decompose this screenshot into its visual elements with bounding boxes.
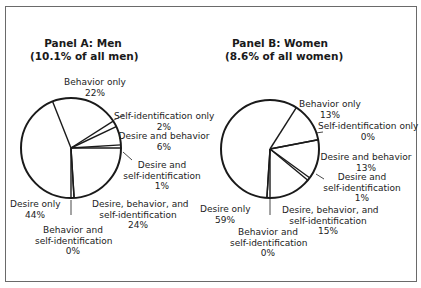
label-a-desire-only: Desire only 44% <box>10 199 60 220</box>
label-value: 6% <box>118 142 210 153</box>
label-value: 44% <box>10 210 60 221</box>
label-text: Desire and behavior <box>320 152 412 163</box>
label-a-behavior-only: Behavior only 22% <box>60 77 130 98</box>
label-value: 1% <box>320 193 404 204</box>
label-text: Behavior only <box>298 99 362 110</box>
label-text: Desire, behavior, and <box>92 199 184 210</box>
label-text: self-identification <box>230 238 306 249</box>
leader-line <box>123 152 132 160</box>
label-text: Desire only <box>10 199 60 210</box>
label-text: Self-identification only <box>318 121 418 132</box>
label-b-desire-behavior: Desire and behavior 13% <box>320 152 412 173</box>
label-value: 22% <box>60 88 130 99</box>
panel-b-title: Panel B: Women (8.6% of all women) <box>225 37 335 63</box>
panel-a-title-text: Panel A: Men <box>30 37 136 50</box>
panel-b-title-text: Panel B: Women <box>225 37 335 50</box>
label-a-desire-behavior: Desire and behavior 6% <box>118 131 210 152</box>
label-value: 0% <box>318 132 418 143</box>
panel-a-subtitle: (10.1% of all men) <box>30 50 136 63</box>
label-text: self-identification <box>120 171 204 182</box>
label-text: self-identification <box>35 236 111 247</box>
label-a-self-id-only: Self-identification only 2% <box>114 111 214 132</box>
label-b-desire-only: Desire only 59% <box>200 204 250 225</box>
panel-a-title: Panel A: Men (10.1% of all men) <box>30 37 136 63</box>
label-value: 0% <box>35 246 111 257</box>
label-b-behavior-only: Behavior only 13% <box>298 99 362 120</box>
label-text: self-identification <box>92 210 184 221</box>
label-a-behavior-selfid: Behavior and self-identification 0% <box>35 225 111 257</box>
label-text: Desire only <box>200 204 250 215</box>
label-text: Desire, behavior, and <box>282 205 374 216</box>
label-text: Self-identification only <box>114 111 214 122</box>
label-value: 1% <box>120 181 204 192</box>
label-b-behavior-selfid: Behavior and self-identification 0% <box>230 227 306 259</box>
panel-b-subtitle: (8.6% of all women) <box>225 50 335 63</box>
label-b-self-id-only: Self-identification only 0% <box>318 121 418 142</box>
label-text: Behavior only <box>60 77 130 88</box>
label-text: Behavior and <box>35 225 111 236</box>
label-value: 0% <box>230 248 306 259</box>
pie-men <box>21 98 121 198</box>
label-value: 13% <box>298 110 362 121</box>
label-text: Desire and behavior <box>118 131 210 142</box>
label-text: Desire and <box>320 172 404 183</box>
label-text: self-identification <box>320 183 404 194</box>
label-value: 59% <box>200 215 250 226</box>
label-a-desire-selfid: Desire and self-identification 1% <box>120 160 204 192</box>
label-b-desire-selfid: Desire and self-identification 1% <box>320 172 404 204</box>
label-text: Behavior and <box>230 227 306 238</box>
label-text: Desire and <box>120 160 204 171</box>
label-text: self-identification <box>282 216 374 227</box>
